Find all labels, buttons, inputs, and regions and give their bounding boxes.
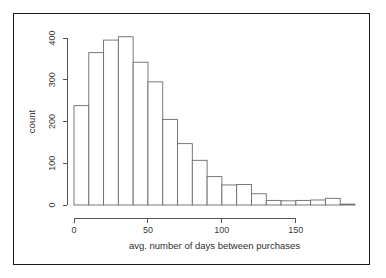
y-axis-tick-label: 200 <box>47 114 57 129</box>
histogram-bar <box>148 82 163 205</box>
histogram-bar <box>118 37 133 205</box>
x-axis-title: avg. number of days between purchases <box>129 240 300 251</box>
histogram-bar <box>296 200 311 205</box>
histogram-bar <box>311 200 326 205</box>
histogram-bar <box>281 201 296 205</box>
histogram-bar <box>178 144 193 205</box>
y-axis-tick-label: 400 <box>47 30 57 45</box>
histogram-bar <box>222 185 237 205</box>
x-axis-tick-label: 50 <box>143 225 153 235</box>
histogram-bar <box>133 62 148 205</box>
histogram-bar <box>237 185 252 205</box>
y-axis-tick-label: 300 <box>47 72 57 87</box>
histogram-bar <box>207 177 222 205</box>
x-axis-tick-label: 150 <box>288 225 303 235</box>
histogram-svg: 0100200300400050100150avg. number of day… <box>0 0 386 278</box>
y-axis-tick-label: 100 <box>47 156 57 171</box>
histogram-bar <box>340 204 355 205</box>
histogram-bar <box>192 160 207 205</box>
y-axis: 0100200300400 <box>47 30 67 207</box>
histogram-bar <box>251 194 266 205</box>
figure-root: 0100200300400050100150avg. number of day… <box>0 0 386 278</box>
histogram-bar <box>163 119 178 205</box>
y-axis-tick-label: 0 <box>47 202 57 207</box>
x-axis-tick-label: 100 <box>214 225 229 235</box>
x-axis-tick-label: 0 <box>71 225 76 235</box>
histogram-bar <box>104 40 119 205</box>
histogram-bar <box>325 198 340 205</box>
histogram-bar <box>74 106 89 205</box>
histogram-bar <box>89 53 104 205</box>
bar-group <box>74 37 355 205</box>
histogram-plot: 0100200300400050100150avg. number of day… <box>0 0 386 278</box>
histogram-bar <box>266 200 281 205</box>
x-axis: 050100150 <box>71 218 303 235</box>
y-axis-title: count <box>26 110 37 134</box>
